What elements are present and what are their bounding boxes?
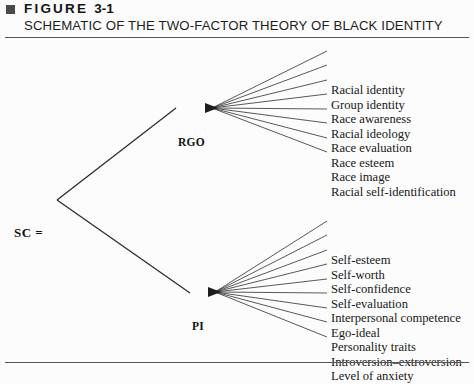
tree-diagram: SC = RGO PI Racial identity Group identi… (0, 37, 474, 362)
rule-bottom (5, 362, 469, 363)
list-item: Self-worth (331, 268, 462, 283)
list-item: Self-evaluation (331, 297, 462, 312)
pi-fan-vertex (208, 287, 221, 297)
list-item: Race image (331, 170, 456, 185)
rgo-fan-lines (212, 51, 327, 152)
list-item: Self-esteem (331, 253, 462, 268)
list-item: Race evaluation (331, 141, 456, 156)
list-item: Group identity (331, 98, 456, 113)
list-item: Interpersonal competence (331, 311, 462, 326)
rgo-leaf-list: Racial identity Group identity Race awar… (331, 83, 456, 199)
root-to-rgo-line (57, 108, 176, 200)
pi-leaf-list: Self-esteem Self-worth Self-confidence S… (331, 253, 462, 384)
rgo-fan-vertex (205, 103, 218, 113)
list-item: Self-confidence (331, 282, 462, 297)
figure-label: FIGURE3-1 (24, 1, 114, 16)
figure-header: FIGURE3-1 SCHEMATIC OF THE TWO-FACTOR TH… (0, 0, 474, 37)
list-item: Level of anxiety (331, 369, 462, 384)
pi-fan-lines (215, 221, 327, 337)
list-item: Racial identity (331, 83, 456, 98)
figure-title: SCHEMATIC OF THE TWO-FACTOR THEORY OF BL… (24, 18, 443, 33)
figure-number: 3-1 (94, 1, 114, 16)
figure-label-word: FIGURE (24, 1, 88, 16)
square-bullet-icon (6, 5, 15, 14)
node-label-sc: SC = (14, 225, 43, 241)
root-to-pi-line (57, 200, 190, 293)
list-item: Ego-ideal (331, 326, 462, 341)
list-item: Race awareness (331, 112, 456, 127)
node-label-pi: PI (192, 320, 204, 332)
node-label-rgo: RGO (178, 136, 205, 148)
list-item: Racial ideology (331, 127, 456, 142)
list-item: Race esteem (331, 156, 456, 171)
root-fork-lines (57, 108, 190, 293)
list-item: Racial self-identification (331, 185, 456, 200)
list-item: Personality traits (331, 340, 462, 355)
